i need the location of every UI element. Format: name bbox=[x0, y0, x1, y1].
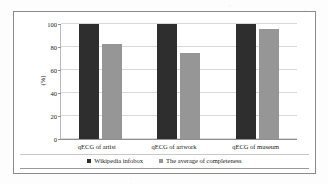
y-tick-label: 40 bbox=[51, 90, 58, 97]
chart-legend: Wikipedia infoboxThe average of complete… bbox=[14, 157, 315, 164]
bar[interactable] bbox=[236, 24, 256, 139]
y-tick-label: 20 bbox=[51, 113, 58, 120]
y-tick-mark bbox=[58, 139, 61, 140]
legend-swatch-icon bbox=[87, 159, 91, 163]
legend-item[interactable]: Wikipedia infobox bbox=[87, 157, 143, 164]
legend-swatch-icon bbox=[159, 159, 163, 163]
figure-root: (%) 020406080100 qECG of artistqECG of a… bbox=[0, 0, 328, 184]
bar[interactable] bbox=[180, 53, 200, 139]
bar-group bbox=[157, 24, 200, 139]
chart-frame: (%) 020406080100 qECG of artistqECG of a… bbox=[13, 11, 316, 174]
bar[interactable] bbox=[259, 29, 279, 139]
plot-area: 020406080100 bbox=[60, 24, 297, 140]
x-tick-label: qECG of artwork bbox=[151, 143, 196, 150]
legend-label: Wikipedia infobox bbox=[94, 157, 143, 164]
legend-item[interactable]: The average of completeness bbox=[159, 157, 242, 164]
y-axis-title: (%) bbox=[39, 70, 46, 92]
x-tick-label: qECG of museum bbox=[232, 143, 279, 150]
y-tick-label: 0 bbox=[54, 136, 57, 143]
plot-wrapper: (%) 020406080100 qECG of artistqECG of a… bbox=[14, 12, 315, 173]
bar-group bbox=[236, 24, 279, 139]
bar-group bbox=[79, 24, 122, 139]
legend-separator-top bbox=[20, 154, 309, 155]
y-tick-label: 60 bbox=[51, 67, 58, 74]
bar[interactable] bbox=[79, 24, 99, 139]
bar-groups bbox=[61, 24, 297, 139]
bar[interactable] bbox=[102, 44, 122, 139]
y-tick-label: 80 bbox=[51, 44, 58, 51]
bar[interactable] bbox=[157, 24, 177, 139]
x-tick-label: qECG of artist bbox=[78, 143, 116, 150]
x-axis-labels: qECG of artistqECG of artworkqECG of mus… bbox=[60, 143, 297, 150]
legend-label: The average of completeness bbox=[166, 157, 242, 164]
legend-separator-bottom bbox=[20, 168, 309, 169]
y-tick-label: 100 bbox=[47, 21, 57, 28]
